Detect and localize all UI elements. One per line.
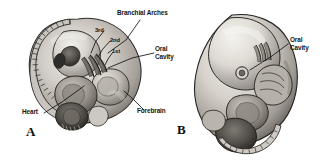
label-oral-cavity-a-line2: Cavity [155,53,174,61]
label-oral-cavity-b-line1: Oral [290,36,309,44]
panel-b-embryo [195,14,298,153]
label-arch-3rd: 3rd [95,27,104,33]
embryo-illustration-svg [0,0,329,160]
label-heart: Heart [22,109,38,116]
label-arch-1st: 1st [112,48,120,54]
label-branchial-arches: Branchial Arches [117,10,168,17]
panel-letter-b: B [177,122,186,138]
label-oral-cavity-b: Oral Cavity [290,36,309,51]
label-forebrain: Forebrain [137,108,166,115]
panel-letter-a: A [26,124,35,140]
panel-a-embryo [29,18,141,131]
label-arch-2nd: 2nd [110,37,120,43]
label-oral-cavity-a-line1: Oral [155,45,174,53]
label-oral-cavity-a: Oral Cavity [155,45,174,60]
embryology-figure: Branchial Arches 3rd 2nd 1st Oral Cavity… [0,0,329,160]
label-oral-cavity-b-line2: Cavity [290,44,309,52]
